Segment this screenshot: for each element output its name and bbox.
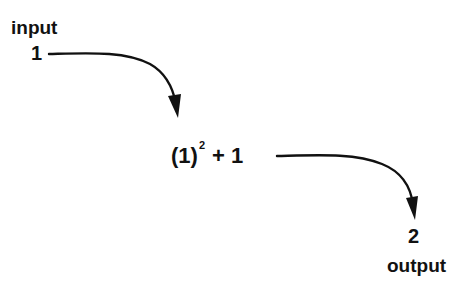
input-value: 1 bbox=[31, 43, 42, 63]
diagram-canvas: input 1 (1)2+ 1 2 output bbox=[0, 0, 464, 283]
expression-rest: + 1 bbox=[212, 143, 243, 168]
expression-base: (1) bbox=[171, 143, 198, 168]
curved-arrow-down-right-icon bbox=[277, 155, 418, 220]
output-label: output bbox=[387, 256, 446, 275]
expression-exponent: 2 bbox=[199, 139, 205, 151]
input-label: input bbox=[11, 18, 57, 37]
arrows-layer bbox=[0, 0, 464, 283]
curved-arrow-down-right-icon bbox=[49, 53, 181, 118]
expression: (1)2+ 1 bbox=[171, 145, 243, 167]
output-value: 2 bbox=[408, 226, 419, 246]
